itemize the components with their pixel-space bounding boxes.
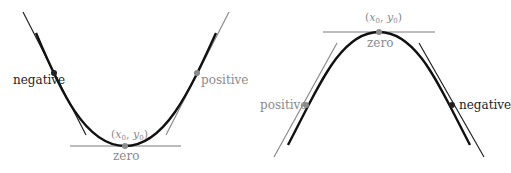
right-positive-label: positive [260,98,307,112]
left-panel: negative positive zero (x0, y0) [13,12,248,163]
left-positive-label: positive [201,73,248,87]
right-zero-point [376,29,382,35]
left-positive-point [194,70,200,76]
right-negative-label: negative [459,98,511,112]
left-negative-label: negative [13,73,65,87]
left-point-label: (x0, y0) [111,128,148,142]
tangent-slope-diagram: negative positive zero (x0, y0) positive… [0,0,511,173]
right-zero-label: zero [367,36,393,50]
left-zero-label: zero [113,149,139,163]
right-negative-point [449,102,455,108]
right-panel: positive negative zero (x0, y0) [260,11,511,157]
right-point-label: (x0, y0) [365,11,402,25]
